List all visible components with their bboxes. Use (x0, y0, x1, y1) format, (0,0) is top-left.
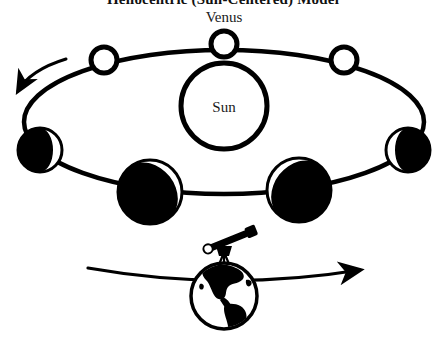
venus-position-top-center (211, 31, 237, 57)
venus-position-lower-right (254, 145, 331, 222)
orbit-direction-arrow (18, 59, 66, 91)
heliocentric-venus-phases-diagram: Heliocentric (Sun-Centered) Model (0, 0, 446, 347)
venus-position-upper-left (91, 47, 117, 73)
sun: Sun (181, 63, 267, 149)
venus-position-upper-right (331, 47, 357, 73)
venus-position-right (386, 128, 430, 172)
sun-label: Sun (212, 99, 236, 115)
venus-position-left (18, 128, 62, 172)
venus-position-lower-left (118, 147, 195, 224)
earth-globe (191, 263, 257, 333)
diagram-canvas: Sun Venus (0, 0, 446, 347)
venus-label: Venus (206, 9, 243, 25)
